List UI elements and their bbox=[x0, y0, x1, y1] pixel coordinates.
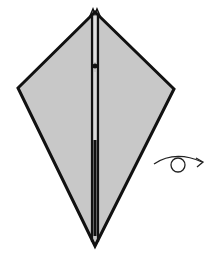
turn-over-icon bbox=[154, 156, 203, 172]
origami-diagram bbox=[0, 0, 219, 262]
center-crease bbox=[90, 9, 100, 242]
